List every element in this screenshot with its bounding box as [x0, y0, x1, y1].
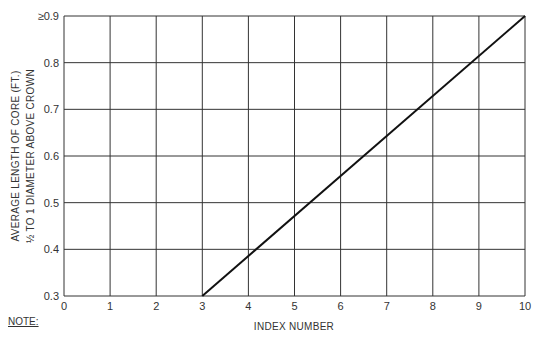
x-tick-label: 6: [338, 300, 344, 312]
x-tick-label: 4: [245, 300, 251, 312]
y-tick-label: 0.6: [44, 150, 59, 162]
y-axis-label-line1: AVERAGE LENGTH OF CORE (FT.): [10, 70, 21, 241]
y-tick-label: 0.3: [44, 290, 59, 302]
y-tick-label: 0.7: [44, 103, 59, 115]
x-tick-label: 7: [384, 300, 390, 312]
x-tick-label: 0: [61, 300, 67, 312]
x-tick-label: 1: [107, 300, 113, 312]
y-tick-label: 0.5: [44, 197, 59, 209]
chart: 012345678910 0.30.40.50.60.70.8≥0.9 INDE…: [0, 0, 534, 337]
y-tick-label: 0.4: [44, 243, 59, 255]
x-axis-ticks: 012345678910: [61, 300, 531, 312]
x-axis-label: INDEX NUMBER: [254, 321, 334, 332]
y-tick-label: 0.8: [44, 57, 59, 69]
x-tick-label: 3: [199, 300, 205, 312]
y-axis-label-line2: ½ TO 1 DIAMETER ABOVE CROWN: [25, 69, 36, 243]
x-tick-label: 9: [476, 300, 482, 312]
note-label: NOTE:: [8, 316, 39, 327]
y-tick-label: ≥0.9: [38, 10, 59, 22]
x-tick-label: 2: [153, 300, 159, 312]
grid: [64, 16, 525, 296]
x-tick-label: 8: [430, 300, 436, 312]
x-tick-label: 10: [519, 300, 531, 312]
x-tick-label: 5: [291, 300, 297, 312]
y-axis-ticks: 0.30.40.50.60.70.8≥0.9: [38, 10, 59, 302]
